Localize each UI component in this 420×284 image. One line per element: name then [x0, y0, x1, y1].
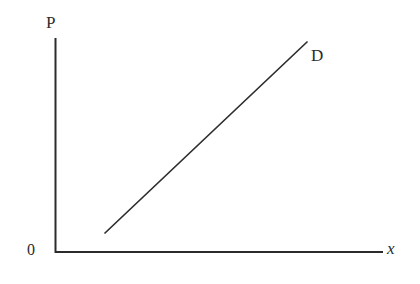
y-axis-label: P	[46, 14, 55, 31]
figure-canvas	[0, 0, 420, 284]
x-axis-label: x	[387, 240, 395, 257]
demand-curve-label: D	[311, 47, 323, 64]
origin-label: 0	[27, 242, 35, 258]
figure-background	[0, 0, 420, 284]
demand-curve-figure: P 0 x D	[0, 0, 420, 284]
